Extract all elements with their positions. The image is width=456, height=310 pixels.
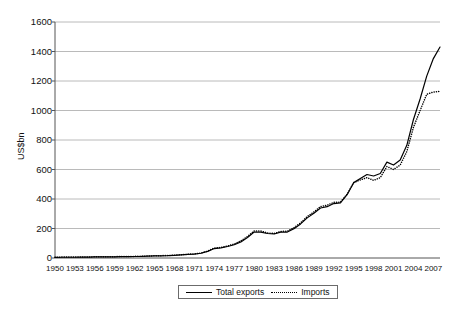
- legend-entry-total-exports: Total exports: [186, 287, 264, 297]
- legend-label: Total exports: [216, 287, 264, 297]
- trade-line-chart: US$bn 02004006008001000120014001600 1950…: [0, 0, 456, 310]
- legend-swatch-solid-icon: [186, 292, 212, 293]
- x-axis-tick-label: 2007: [420, 265, 446, 273]
- legend-label: Imports: [301, 287, 329, 297]
- legend-swatch-dotted-icon: [271, 292, 297, 293]
- x-axis-tick-labels: 1950195319561959196219651968197119741977…: [0, 0, 456, 310]
- legend-entry-imports: Imports: [271, 287, 329, 297]
- chart-legend: Total exportsImports: [178, 285, 338, 299]
